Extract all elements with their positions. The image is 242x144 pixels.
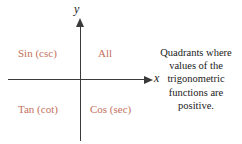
trig-quadrant-figure: y x Sin (csc) All Tan (cot) Cos (sec) Qu… (0, 0, 242, 144)
caption-line: functions are (152, 86, 240, 99)
quadrant-label-cos-sec: Cos (sec) (90, 104, 131, 115)
caption-line: values of the (152, 59, 240, 72)
x-axis-line (8, 79, 147, 80)
caption-block: Quadrants where values of the trigonomet… (152, 46, 240, 112)
caption-line: Quadrants where (152, 46, 240, 59)
quadrant-label-all: All (98, 48, 112, 59)
y-axis-label: y (74, 3, 79, 15)
y-axis-arrow-icon (76, 18, 84, 27)
caption-line: positive. (152, 99, 240, 112)
quadrant-label-tan-cot: Tan (cot) (18, 104, 58, 115)
y-axis-line (80, 26, 81, 141)
caption-line: trigonometric (152, 72, 240, 85)
quadrant-label-sin-csc: Sin (csc) (18, 48, 57, 59)
